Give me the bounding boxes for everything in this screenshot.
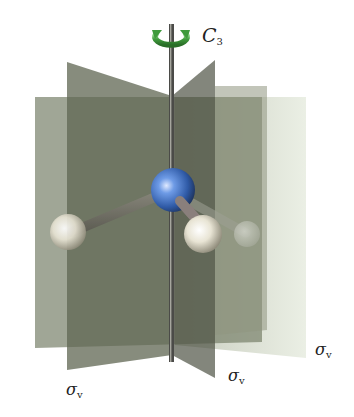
symmetry-diagram xyxy=(0,0,354,417)
atom-hydrogen-left xyxy=(50,214,86,250)
atom-hydrogen-back xyxy=(234,221,260,247)
mirror-plane-mid xyxy=(215,86,267,335)
sigma-v-label-middle: σv xyxy=(228,368,245,386)
atom-hydrogen-front xyxy=(184,215,222,253)
sigma-v-label-right: σv xyxy=(315,342,332,360)
sigma-v-label-left: σv xyxy=(66,382,83,400)
c3-axis-label: C3 xyxy=(202,26,223,47)
